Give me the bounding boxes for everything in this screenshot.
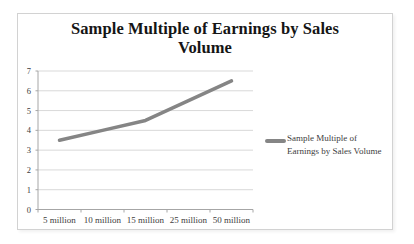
- legend-label-line-1: Sample Multiple of: [287, 132, 386, 145]
- legend-label: Sample Multiple of Earnings by Sales Vol…: [287, 132, 386, 157]
- chart-canvas: Sample Multiple of Earnings by Sales Vol…: [0, 0, 414, 244]
- legend-line-marker: [265, 139, 286, 143]
- x-axis-label: 50 million: [204, 215, 260, 225]
- y-axis-label: 6: [9, 86, 31, 96]
- y-axis-label: 0: [9, 205, 31, 215]
- y-axis-label: 7: [9, 66, 31, 76]
- legend-label-line-2: Earnings by Sales Volume: [287, 145, 386, 158]
- y-axis-label: 5: [9, 106, 31, 116]
- plot-area: [0, 0, 414, 244]
- y-axis-label: 1: [9, 185, 31, 195]
- y-axis-label: 3: [9, 145, 31, 155]
- y-axis-label: 4: [9, 125, 31, 135]
- y-axis-label: 2: [9, 165, 31, 175]
